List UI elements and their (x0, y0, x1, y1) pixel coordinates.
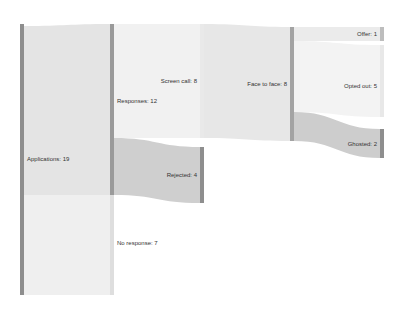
link-face-to-face-ghosted (294, 112, 380, 158)
node-opted-out[interactable] (380, 45, 384, 117)
node-offer[interactable] (380, 27, 384, 41)
link-applications-no-response (24, 195, 110, 295)
label-applications: Applications: 19 (27, 156, 70, 162)
label-screen-call: Screen call: 8 (161, 78, 198, 84)
link-face-to-face-opted-out (294, 41, 380, 117)
label-offer: Offer: 1 (357, 31, 378, 37)
label-responses: Responses: 12 (117, 98, 158, 104)
node-responses[interactable] (110, 24, 114, 195)
label-rejected: Rejected: 4 (167, 172, 198, 178)
node-no-response[interactable] (110, 195, 114, 295)
label-no-response: No response: 7 (117, 240, 158, 246)
label-face-to-face: Face to face: 8 (247, 81, 287, 87)
node-applications[interactable] (20, 24, 24, 295)
node-rejected[interactable] (200, 147, 204, 203)
node-ghosted[interactable] (380, 129, 384, 158)
link-responses-rejected (114, 138, 200, 203)
node-screen-call[interactable] (200, 24, 204, 138)
sankey-diagram: Applications: 19 Responses: 12 No respon… (0, 0, 405, 311)
label-opted-out: Opted out: 5 (344, 83, 378, 89)
label-ghosted: Ghosted: 2 (348, 141, 378, 147)
link-applications-responses (24, 24, 110, 195)
node-face-to-face[interactable] (290, 27, 294, 141)
